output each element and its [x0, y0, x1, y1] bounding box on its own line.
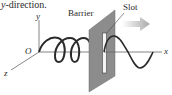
x-axis-label: x [164, 47, 168, 56]
helix-wave [39, 38, 91, 62]
z-axis-label: z [4, 69, 8, 78]
polarization-diagram: y-direction. y O x z Barrier Slot [0, 0, 172, 95]
slot-label: Slot [123, 3, 138, 12]
slot [103, 33, 107, 73]
y-axis-label: y [36, 12, 40, 21]
barrier-label: Barrier [68, 9, 93, 18]
caption-text: y-direction. [1, 0, 47, 10]
origin-label: O [25, 47, 32, 56]
propagation-arrow-icon [122, 17, 150, 31]
caption-rest: -direction. [5, 0, 46, 10]
barrier-plate [89, 10, 115, 92]
